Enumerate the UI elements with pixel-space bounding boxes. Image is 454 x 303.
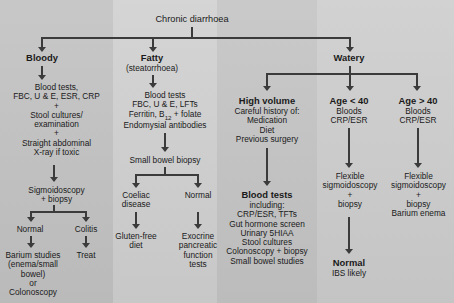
fatty-arrow-normal-plan: [194, 224, 202, 229]
fatty-workup: Blood tests FBC, U & E, LFTs Ferritin, B…: [113, 91, 217, 130]
watery-drop-high-volume: [266, 73, 268, 87]
watery-age-under-plan: Flexible sigmoidoscopy + biopsy: [315, 172, 385, 209]
bloody-arrow-procedure: [50, 177, 58, 182]
root-bus: [41, 37, 350, 39]
fatty-arrow-workup: [149, 83, 157, 88]
watery-blood-tests-heading: Blood tests: [217, 190, 317, 201]
fatty-arrow-normal: [194, 183, 202, 188]
watery-age-under-outcome-heading: Normal: [317, 258, 381, 269]
fatty-workup-to-biopsy: [164, 133, 166, 148]
watery-age-over-plan: Flexible sigmoidoscopy + biopsy Barium e…: [383, 172, 454, 218]
watery-arrow-bloods: [263, 181, 271, 186]
watery-age-under-line-2: CRP/ESR: [317, 116, 381, 125]
fatty-outcome-coeliac: Coeliac disease: [113, 191, 159, 210]
flowchart-canvas: Chronic diarrhoea Bloody Blood tests, FB…: [0, 0, 454, 303]
watery-age-under-to-outcome: [348, 217, 350, 250]
fatty-workup-line-3-subscript: 12: [165, 113, 172, 120]
watery-high-volume-line-4: Previous surgery: [213, 135, 321, 144]
fatty-coeliac-plan-line-2: diet: [108, 241, 164, 250]
watery-age-under-heading: Age < 40: [317, 96, 381, 107]
watery-high-volume-heading: High volume: [217, 96, 317, 107]
bloody-arrow-colitis-plan: [82, 243, 90, 248]
watery-drop-age-over: [416, 73, 418, 87]
fatty-workup-line-3-prefix: Ferritin, B: [129, 109, 165, 119]
fatty-coeliac-plan: Gluten-free diet: [108, 232, 164, 251]
watery-age-over-line-2: CRP/ESR: [386, 116, 450, 125]
root-node-chronic-diarrhoea: Chronic diarrhoea: [112, 14, 272, 24]
watery-age-under-bloods: Bloods CRP/ESR: [317, 107, 381, 126]
fatty-outcome-normal: Normal: [175, 191, 221, 200]
bloody-workup-line-6: X-ray if toxic: [0, 148, 113, 157]
bloody-procedure: Sigmoidoscopy + biopsy: [0, 186, 113, 205]
watery-drop-age-under: [349, 73, 351, 87]
fatty-arrow-coeliac: [132, 183, 140, 188]
watery-age-over-heading: Age > 40: [386, 96, 450, 107]
fatty-arrow-biopsy: [161, 147, 169, 152]
watery-arrow-high-volume: [263, 86, 271, 91]
watery-blood-tests-line-7: Small bowel studies: [209, 257, 325, 266]
bloody-fork-bus: [30, 211, 86, 213]
fatty-workup-line-4: Endomysial antibodies: [113, 121, 217, 130]
watery-blood-tests-list: including: CRP/ESR, TFTs Gut hormone scr…: [209, 201, 325, 266]
bloody-workup: Blood tests, FBC, U & E, ESR, CRP + Stoo…: [0, 83, 113, 157]
bloody-colitis-plan: Treat: [64, 251, 108, 260]
watery-arrow-age-under: [346, 86, 354, 91]
watery-arrow-age-under-outcome: [345, 249, 353, 254]
bloody-outcome-normal: Normal: [5, 225, 55, 234]
watery-age-under-to-plan: [348, 128, 350, 164]
bloody-arrow-normal-plan: [27, 243, 35, 248]
watery-arrow-age-under-plan: [345, 163, 353, 168]
watery-age-over-to-plan: [417, 128, 419, 164]
bloody-normal-plan-line-5: Colonoscopy: [0, 288, 66, 297]
bloody-outcome-colitis: Colitis: [61, 225, 111, 234]
watery-high-volume-to-bloods: [266, 148, 268, 182]
fatty-procedure: Small bowel biopsy: [113, 156, 217, 165]
watery-arrow-age-over: [413, 86, 421, 91]
branch-heading-watery: Watery: [319, 53, 379, 64]
bloody-arrow-colitis: [82, 217, 90, 222]
fatty-outcome-coeliac-line-2: disease: [113, 200, 159, 209]
watery-fork-bus: [266, 73, 416, 75]
branch-heading-bloody: Bloody: [12, 53, 72, 64]
branch-subheading-fatty: (steatorrhoea): [116, 64, 188, 73]
fatty-fork-bus: [135, 174, 199, 176]
watery-age-over-bloods: Bloods CRP/ESR: [386, 107, 450, 126]
watery-age-under-outcome-detail: IBS likely: [317, 269, 381, 278]
watery-age-over-plan-line-4: Barium enema: [383, 209, 454, 218]
fatty-workup-line-3-suffix: + folate: [172, 109, 202, 119]
watery-age-under-plan-line-3: biopsy: [315, 200, 385, 209]
bloody-procedure-line-2: + biopsy: [0, 195, 113, 204]
watery-high-volume-history: Careful history of: Medication Diet Prev…: [213, 107, 321, 144]
bloody-arrow-workup: [38, 75, 46, 80]
watery-arrow-age-over-plan: [414, 163, 422, 168]
bloody-arrow-normal: [27, 217, 35, 222]
bloody-normal-plan: Barium studies (enema/small bowel) or Co…: [0, 251, 66, 297]
branch-heading-fatty: Fatty: [122, 53, 182, 64]
fatty-arrow-coeliac-plan: [132, 224, 140, 229]
